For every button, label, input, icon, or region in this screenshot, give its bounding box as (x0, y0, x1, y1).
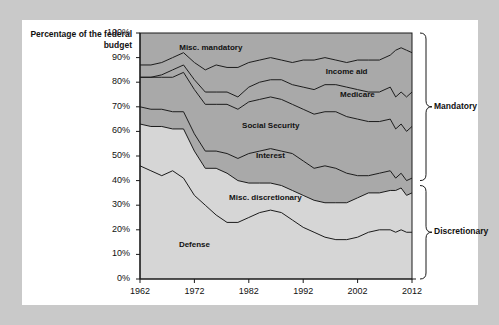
y-tick-label: 80% (98, 76, 130, 86)
y-tick-label: 20% (98, 224, 130, 234)
x-tick-label: 2002 (341, 286, 375, 296)
y-tick-label: 60% (98, 125, 130, 135)
y-tick-label: 90% (98, 52, 130, 62)
y-tick-label: 0% (98, 273, 130, 283)
series-label-misc-discretionary: Misc. discretionary (229, 193, 301, 202)
x-tick-label: 1962 (123, 286, 157, 296)
y-tick-label: 50% (98, 150, 130, 160)
y-tick-label: 40% (98, 175, 130, 185)
series-label-interest: Interest (256, 151, 285, 160)
bracket-label-mandatory: Mandatory (434, 101, 477, 111)
y-tick-label: 10% (98, 248, 130, 258)
x-tick-label: 2012 (395, 286, 429, 296)
bracket-label-discretionary: Discretionary (434, 226, 488, 236)
figure-card: Percentage of the federal budget 100%90%… (22, 20, 478, 305)
bracket-discretionary (420, 186, 432, 279)
series-label-misc-mandatory: Misc. mandatory (179, 43, 242, 52)
series-label-defense: Defense (179, 240, 210, 249)
x-tick-label: 1972 (177, 286, 211, 296)
series-label-medicare: Medicare (340, 90, 375, 99)
series-label-social-security: Social Security (242, 121, 299, 130)
area-chart (22, 20, 478, 305)
y-tick-label: 70% (98, 101, 130, 111)
y-tick-label: 100% (98, 27, 130, 37)
bracket-mandatory (420, 33, 432, 181)
series-label-income-aid: Income aid (326, 67, 368, 76)
x-tick-label: 1992 (286, 286, 320, 296)
y-tick-label: 30% (98, 199, 130, 209)
x-tick-label: 1982 (232, 286, 266, 296)
